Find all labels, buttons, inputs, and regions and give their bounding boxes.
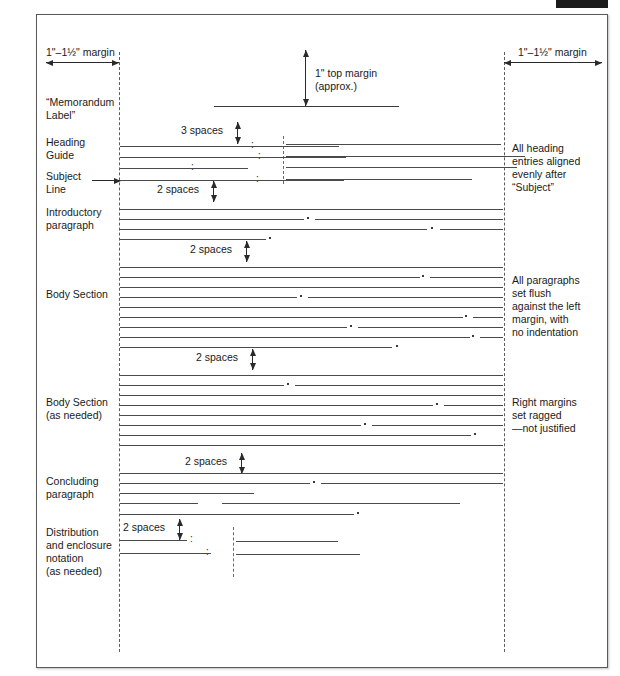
text-line bbox=[120, 229, 427, 230]
heading-row-value bbox=[286, 156, 525, 157]
sentence-period bbox=[287, 383, 289, 385]
sentence-period bbox=[350, 325, 352, 327]
heading-row-colon: : bbox=[191, 162, 194, 172]
text-line bbox=[120, 239, 266, 240]
text-line bbox=[321, 483, 503, 484]
spacing-heading-arrow bbox=[237, 122, 238, 144]
note-paragraph-flush: All paragraphs set flush against the lef… bbox=[512, 274, 610, 339]
text-line bbox=[430, 277, 503, 278]
heading-row-label bbox=[120, 168, 248, 169]
text-line bbox=[120, 337, 470, 338]
distribution-subcolumn bbox=[233, 527, 234, 577]
heading-row-colon: : bbox=[258, 151, 261, 161]
text-line bbox=[372, 425, 503, 426]
distribution-row-value bbox=[236, 541, 338, 542]
text-line bbox=[308, 297, 503, 298]
text-line bbox=[120, 503, 198, 504]
memorandum-label-rule bbox=[214, 106, 399, 107]
heading-row-colon: : bbox=[251, 140, 254, 150]
sentence-period bbox=[300, 295, 302, 297]
heading-row-value bbox=[286, 167, 517, 168]
heading-guide-subcolumn bbox=[283, 136, 284, 184]
right-margin-measure-arrow bbox=[504, 62, 602, 63]
heading-row-label bbox=[120, 157, 346, 158]
sentence-period bbox=[269, 237, 271, 239]
text-line bbox=[358, 327, 503, 328]
text-line bbox=[120, 425, 361, 426]
text-line bbox=[120, 385, 284, 386]
label-memorandum-label: “Memorandum Label” bbox=[46, 96, 124, 122]
sentence-period bbox=[422, 275, 424, 277]
text-line bbox=[480, 337, 503, 338]
label-heading-guide: Heading Guide bbox=[46, 136, 124, 162]
sentence-period bbox=[436, 403, 438, 405]
heading-row-colon: : bbox=[256, 174, 259, 184]
text-line bbox=[120, 415, 503, 416]
text-line bbox=[120, 514, 354, 515]
distribution-row-label bbox=[120, 540, 187, 541]
sentence-period bbox=[396, 345, 398, 347]
registration-bar bbox=[556, 0, 608, 8]
text-line bbox=[120, 327, 347, 328]
text-line bbox=[473, 317, 503, 318]
callout-spacing-intro: 2 spaces bbox=[190, 243, 250, 256]
text-line bbox=[120, 435, 471, 436]
left-margin-measure-arrow bbox=[46, 62, 119, 63]
heading-row-label bbox=[120, 180, 344, 181]
sentence-period bbox=[465, 315, 467, 317]
figure-stage: 1"–1½" margin 1"–1½" margin 1" top margi… bbox=[0, 0, 620, 676]
distribution-row-label bbox=[120, 553, 211, 554]
text-line bbox=[440, 229, 503, 230]
sentence-period bbox=[364, 423, 366, 425]
text-line bbox=[120, 219, 304, 220]
text-line bbox=[120, 473, 503, 474]
text-line bbox=[315, 219, 503, 220]
label-introductory-paragraph: Introductory paragraph bbox=[46, 206, 128, 232]
subject-line-pointer bbox=[92, 180, 120, 181]
heading-row-label bbox=[120, 146, 339, 147]
label-subject-line: Subject Line bbox=[46, 170, 106, 196]
sentence-period bbox=[431, 227, 433, 229]
sentence-period bbox=[313, 481, 315, 483]
top-margin-measure-arrow bbox=[305, 50, 306, 106]
label-distribution-notation: Distribution and enclosure notation (as … bbox=[46, 526, 132, 578]
text-line bbox=[444, 405, 503, 406]
text-line bbox=[120, 307, 503, 308]
note-heading-alignment: All heading entries aligned evenly after… bbox=[512, 142, 610, 194]
text-line bbox=[120, 395, 503, 396]
text-line bbox=[120, 317, 463, 318]
distribution-row-colon: : bbox=[206, 547, 209, 557]
text-line bbox=[120, 445, 503, 446]
distribution-row-colon: : bbox=[190, 534, 193, 544]
heading-row-value bbox=[286, 144, 501, 145]
text-line bbox=[230, 503, 460, 504]
text-line bbox=[120, 287, 503, 288]
text-line bbox=[120, 375, 503, 376]
right-margin-guide bbox=[504, 52, 505, 652]
sentence-period bbox=[357, 512, 359, 514]
callout-spacing-concluding: 2 spaces bbox=[185, 455, 245, 468]
text-line bbox=[120, 297, 297, 298]
callout-spacing-body: 2 spaces bbox=[196, 351, 256, 364]
callout-spacing-heading: 3 spaces bbox=[181, 124, 241, 137]
text-line bbox=[120, 493, 254, 494]
sentence-period bbox=[472, 335, 474, 337]
spacing-subject-arrow bbox=[213, 181, 214, 202]
spacing-body-arrow bbox=[252, 349, 253, 370]
label-body-section-as-needed: Body Section (as needed) bbox=[46, 396, 128, 422]
sentence-period bbox=[307, 217, 309, 219]
spacing-distribution-arrow bbox=[179, 519, 180, 540]
text-line bbox=[120, 405, 433, 406]
callout-spacing-distribution: 2 spaces bbox=[123, 521, 183, 534]
spacing-concluding-arrow bbox=[241, 453, 242, 474]
distribution-row-value bbox=[236, 554, 360, 555]
text-line bbox=[120, 209, 503, 210]
text-line bbox=[120, 277, 420, 278]
text-line bbox=[120, 347, 392, 348]
top-margin-label: 1" top margin (approx.) bbox=[315, 67, 435, 93]
note-ragged-right: Right margins set ragged —not justified bbox=[512, 396, 610, 435]
left-margin-label: 1"–1½" margin bbox=[46, 46, 166, 59]
label-body-section: Body Section bbox=[46, 288, 128, 301]
heading-row-value bbox=[286, 179, 472, 180]
sentence-period bbox=[474, 433, 476, 435]
